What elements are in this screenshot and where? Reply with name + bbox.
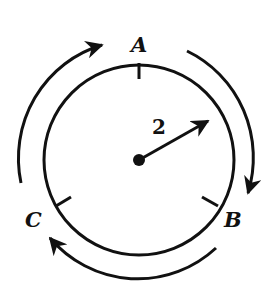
label-c: C — [25, 207, 42, 232]
tick-c — [56, 197, 71, 206]
radius-label: 2 — [152, 115, 166, 139]
radius-arrow — [139, 121, 208, 160]
label-a: A — [129, 32, 147, 57]
arc-arrow-c-to-a — [18, 45, 102, 183]
tick-b — [202, 197, 218, 206]
circle-diagram: A B C 2 — [0, 0, 271, 295]
center-dot — [133, 154, 145, 166]
arc-arrow-b-to-c — [50, 238, 216, 279]
arc-arrow-a-to-b — [187, 51, 253, 193]
label-b: B — [223, 207, 242, 232]
